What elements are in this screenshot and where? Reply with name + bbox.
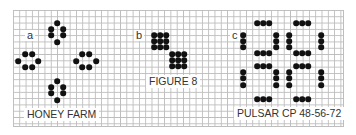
live-cell-dot	[54, 97, 60, 103]
live-cell-dot	[254, 63, 260, 69]
live-cell-dot	[240, 82, 246, 88]
live-cell-dot	[157, 38, 163, 44]
live-cell-dot	[305, 63, 311, 69]
live-cell-dot	[175, 51, 181, 57]
live-cell-dot	[169, 57, 175, 63]
live-cell-dot	[73, 58, 79, 64]
live-cell-dot	[266, 96, 272, 102]
live-cell-dot	[181, 63, 187, 69]
panel-letter-a: a	[25, 30, 35, 41]
live-cell-dot	[60, 32, 66, 38]
live-cell-dot	[305, 20, 311, 26]
live-cell-dot	[299, 50, 305, 56]
live-cell-dot	[157, 32, 163, 38]
live-cell-dot	[86, 64, 92, 70]
live-cell-dot	[22, 64, 28, 70]
live-cell-dot	[79, 51, 85, 57]
live-cell-dot	[169, 63, 175, 69]
live-cell-dot	[79, 64, 85, 70]
life-patterns-figure: a b c HONEY FARM FIGURE 8 PULSAR CP 48-5…	[0, 0, 356, 135]
live-cell-dot	[181, 51, 187, 57]
live-cell-dot	[151, 44, 157, 50]
caption-figure-8: FIGURE 8	[146, 75, 200, 88]
live-cell-dot	[260, 50, 266, 56]
live-cell-dot	[293, 96, 299, 102]
live-cell-dot	[240, 69, 246, 75]
live-cell-dot	[240, 44, 246, 50]
live-cell-dot	[151, 38, 157, 44]
live-cell-dot	[299, 20, 305, 26]
panel-letter-c: c	[230, 30, 240, 41]
live-cell-dot	[54, 39, 60, 45]
live-cell-dot	[273, 44, 279, 50]
live-cell-dot	[163, 44, 169, 50]
live-cell-dot	[299, 63, 305, 69]
live-cell-dot	[286, 44, 292, 50]
live-cell-dot	[266, 63, 272, 69]
live-cell-dot	[60, 90, 66, 96]
live-cell-dot	[151, 32, 157, 38]
live-cell-dot	[260, 96, 266, 102]
caption-pulsar: PULSAR CP 48-56-72	[234, 107, 344, 120]
live-cell-dot	[273, 69, 279, 75]
live-cell-dot	[273, 32, 279, 38]
live-cell-dot	[163, 32, 169, 38]
live-cell-dot	[29, 51, 35, 57]
live-cell-dot	[48, 26, 54, 32]
live-cell-dot	[240, 32, 246, 38]
live-cell-dot	[163, 38, 169, 44]
live-cell-dot	[169, 51, 175, 57]
live-cell-dot	[260, 20, 266, 26]
live-cell-dot	[305, 96, 311, 102]
live-cell-dot	[48, 90, 54, 96]
live-cell-dot	[254, 20, 260, 26]
live-cell-dot	[273, 75, 279, 81]
live-cell-dot	[293, 50, 299, 56]
live-cell-dot	[273, 38, 279, 44]
live-cell-dot	[181, 57, 187, 63]
live-cell-dot	[29, 64, 35, 70]
live-cell-dot	[54, 20, 60, 26]
live-cell-dot	[254, 96, 260, 102]
live-cell-dot	[318, 69, 324, 75]
live-cell-dot	[318, 82, 324, 88]
live-cell-dot	[254, 50, 260, 56]
live-cell-dot	[266, 20, 272, 26]
live-cell-dot	[35, 58, 41, 64]
live-cell-dot	[273, 82, 279, 88]
live-cell-dot	[175, 63, 181, 69]
live-cell-dot	[318, 38, 324, 44]
live-cell-dot	[286, 75, 292, 81]
live-cell-dot	[240, 38, 246, 44]
live-cell-dot	[48, 32, 54, 38]
live-cell-dot	[318, 75, 324, 81]
live-cell-dot	[305, 50, 311, 56]
live-cell-dot	[54, 78, 60, 84]
live-cell-dot	[260, 63, 266, 69]
live-cell-dot	[86, 51, 92, 57]
caption-honey-farm: HONEY FARM	[24, 108, 99, 121]
live-cell-dot	[93, 58, 99, 64]
live-cell-dot	[299, 96, 305, 102]
panel-letter-b: b	[134, 30, 144, 41]
live-cell-dot	[175, 57, 181, 63]
live-cell-dot	[286, 38, 292, 44]
live-cell-dot	[293, 20, 299, 26]
live-cell-dot	[293, 63, 299, 69]
live-cell-dot	[60, 84, 66, 90]
live-cell-dot	[286, 32, 292, 38]
live-cell-dot	[15, 58, 21, 64]
live-cell-dot	[157, 44, 163, 50]
live-cell-dot	[266, 50, 272, 56]
live-cell-dot	[60, 26, 66, 32]
live-cell-dot	[286, 82, 292, 88]
live-cell-dot	[240, 75, 246, 81]
live-cell-dot	[48, 84, 54, 90]
live-cell-dot	[22, 51, 28, 57]
live-cell-dot	[318, 44, 324, 50]
live-cell-dot	[286, 69, 292, 75]
live-cell-dot	[318, 32, 324, 38]
